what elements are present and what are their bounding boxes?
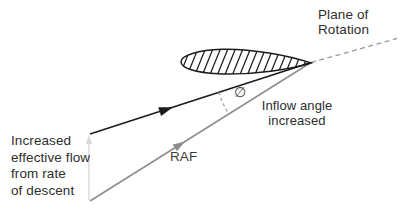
raf-line (90, 63, 311, 202)
label-line: Rotation (318, 22, 369, 37)
label-line: increased (260, 114, 334, 129)
inflow-angle-label: Inflow angle increased (260, 99, 334, 128)
label-line: Increased (11, 133, 90, 150)
effective-flow-label: Increased effective flow from rate of de… (11, 133, 90, 199)
label-line: from rate (11, 166, 90, 183)
plane-of-rotation-line (311, 39, 397, 63)
label-line: effective flow (11, 150, 90, 167)
effective-flow-arrowhead-icon (158, 103, 174, 116)
diagram-canvas: ∅ Plane of Rotation (0, 0, 405, 211)
angle-symbol: ∅ (234, 84, 246, 100)
plane-of-rotation-label: Plane of Rotation (318, 7, 369, 37)
label-line: Inflow angle (260, 99, 334, 114)
label-line: of descent (11, 183, 90, 200)
label-line: Plane of (318, 7, 369, 22)
inflow-angle-arc (219, 92, 229, 114)
raf-label: RAF (170, 149, 197, 166)
